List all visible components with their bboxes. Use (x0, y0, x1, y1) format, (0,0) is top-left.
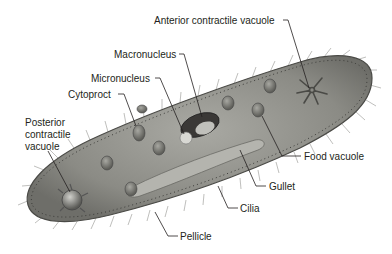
label-posterior-contractile-vacuole: Posterior contractile vacuole (25, 117, 71, 153)
label-line: contractile (25, 129, 71, 141)
label-line: Posterior (25, 117, 71, 129)
micronucleus-shape (180, 132, 192, 144)
label-food-vacuole: Food vacuole (304, 151, 364, 162)
label-anterior-contractile-vacuole: Anterior contractile vacuole (154, 15, 275, 26)
label-micronucleus: Micronucleus (91, 73, 150, 84)
label-cytoproct: Cytoproct (68, 89, 111, 100)
paramecium-diagram: Anterior contractile vacuole Macronucleu… (0, 0, 392, 254)
label-macronucleus: Macronucleus (114, 49, 176, 60)
label-pellicle: Pellicle (180, 231, 212, 242)
label-line: vacuole (25, 141, 71, 153)
label-gullet: Gullet (269, 181, 295, 192)
label-cilia: Cilia (240, 203, 259, 214)
